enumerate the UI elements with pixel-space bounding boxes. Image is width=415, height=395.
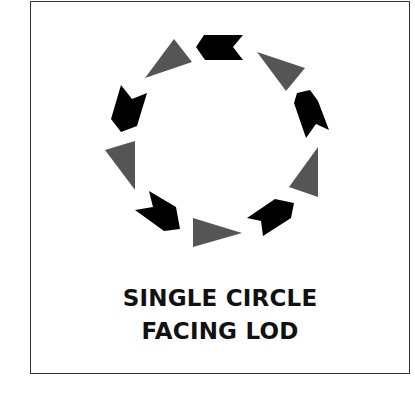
caption-line-2: FACING LOD bbox=[30, 320, 410, 343]
chevron-arrow-icon bbox=[196, 35, 243, 60]
triangle-arrow-icon bbox=[145, 39, 192, 78]
chevron-arrow-icon bbox=[294, 90, 329, 138]
chevron-arrow-icon bbox=[111, 85, 147, 132]
triangle-arrow-icon bbox=[289, 147, 318, 197]
chevron-arrow-icon bbox=[247, 199, 294, 236]
triangle-arrow-icon bbox=[193, 218, 242, 247]
triangle-arrow-icon bbox=[257, 52, 305, 91]
formation-shapes bbox=[105, 35, 329, 247]
chevron-arrow-icon bbox=[135, 191, 180, 231]
triangle-arrow-icon bbox=[105, 141, 135, 190]
caption-line-1: SINGLE CIRCLE bbox=[30, 287, 410, 310]
